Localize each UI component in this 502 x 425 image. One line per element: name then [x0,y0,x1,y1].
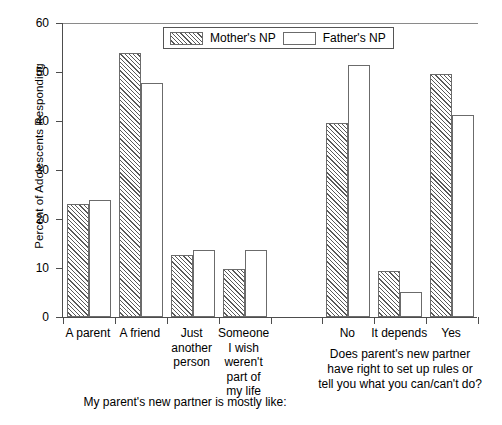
y-axis-tick-label: 20 [0,212,49,226]
x-axis-tick [219,317,220,324]
x-axis-category-label: Someone I wish weren't part of my life [199,326,289,399]
legend-label-fathers-np: Father's NP [323,31,386,45]
x-axis-tick [374,317,375,324]
bar-mothers-np [171,255,193,317]
x-axis-tick [115,317,116,324]
y-axis-tick [56,23,63,24]
plot-area [62,24,477,318]
y-axis-tick-label: 10 [0,261,49,275]
y-axis-tick [56,317,63,318]
y-axis-tick [56,72,63,73]
y-axis-tick-label: 60 [0,16,49,30]
x-axis-tick [426,317,427,324]
bar-fathers-np [245,250,267,317]
bar-mothers-np [119,53,141,317]
y-axis-tick-label: 50 [0,65,49,79]
bar-fathers-np [348,65,370,317]
legend-swatch-fathers-np [283,32,316,45]
y-axis-tick [56,121,63,122]
x-axis-tick [63,317,64,324]
y-axis-tick [56,268,63,269]
chart-figure: Percent of Adolescents Responding 010203… [0,0,502,425]
y-axis-tick-label: 30 [0,163,49,177]
bar-mothers-np [430,74,452,317]
x-axis-tick [167,317,168,324]
y-axis-tick [56,219,63,220]
bar-fathers-np [400,292,422,317]
bar-fathers-np [452,115,474,317]
bar-mothers-np [67,204,89,317]
caption-left: My parent's new partner is mostly like: [30,395,340,410]
x-axis-tick [322,317,323,324]
bar-mothers-np [326,123,348,317]
chart-legend: Mother's NP Father's NP [163,27,394,49]
legend-label-mothers-np: Mother's NP [210,31,276,45]
x-axis-category-label: Yes [406,326,496,341]
y-axis-tick [56,170,63,171]
caption-right: Does parent's new partner have right to … [300,347,500,392]
bar-mothers-np [223,269,245,317]
bar-mothers-np [378,271,400,317]
x-axis-tick [271,317,272,324]
y-axis-tick-label: 0 [0,310,49,324]
y-axis-tick-label: 40 [0,114,49,128]
x-axis-tick [478,317,479,324]
bar-fathers-np [193,250,215,317]
bar-fathers-np [89,200,111,317]
bar-fathers-np [141,83,163,317]
legend-swatch-mothers-np [170,32,203,45]
